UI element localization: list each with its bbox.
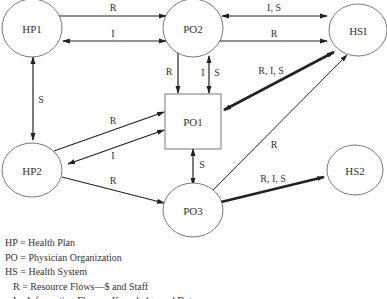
label-hs1: HSI — [349, 25, 367, 37]
edge-label-po2-hs1-r: R — [271, 28, 278, 39]
label-po3: PO3 — [183, 205, 203, 217]
legend-hp: HP = Health Plan — [5, 236, 196, 251]
label-hp2: HP2 — [22, 165, 42, 177]
edge-po1-hp2-i — [68, 130, 164, 164]
label-hs2: HS2 — [345, 165, 365, 177]
edge-label-hp2-po3-r: R — [110, 175, 117, 186]
edge-label-hp1-hp2-s: S — [38, 94, 44, 105]
edge-label-hs1-po1-ris: R, I, S — [258, 65, 284, 76]
edge-label-po1-po3-s: S — [199, 159, 205, 170]
legend-i: I = Information Flows—Knowledge and Data — [5, 294, 196, 299]
edge-label-po2-hs1-is: I, S — [267, 2, 281, 13]
label-po1: PO1 — [183, 116, 203, 128]
edge-label-po3-hs1-r: R — [271, 139, 278, 150]
edge-label-hp2-po1-r: R — [110, 115, 117, 126]
edge-label-hp1-po2-r: R — [110, 2, 117, 13]
edge-label-po1-hp2-i: I — [111, 150, 114, 161]
edge-label-po2-po1-s: S — [214, 67, 220, 78]
legend-hs: HS = Health System — [5, 265, 196, 280]
edge-label-po3-hs2-ris: R, I, S — [260, 173, 286, 184]
edge-label-hp1-po2-i: I — [111, 28, 114, 39]
legend: HP = Health Plan PO = Physician Organiza… — [5, 236, 196, 299]
legend-po: PO = Physician Organization — [5, 251, 196, 266]
edge-hs1-po1-ris — [224, 52, 334, 110]
label-po2: PO2 — [183, 23, 203, 35]
edge-label-po2-po1-r: R — [166, 66, 173, 77]
legend-r: R = Resource Flows—$ and Staff — [5, 280, 196, 295]
label-hp1: HP1 — [22, 23, 42, 35]
edge-label-po2-po1-i: I — [201, 67, 204, 78]
